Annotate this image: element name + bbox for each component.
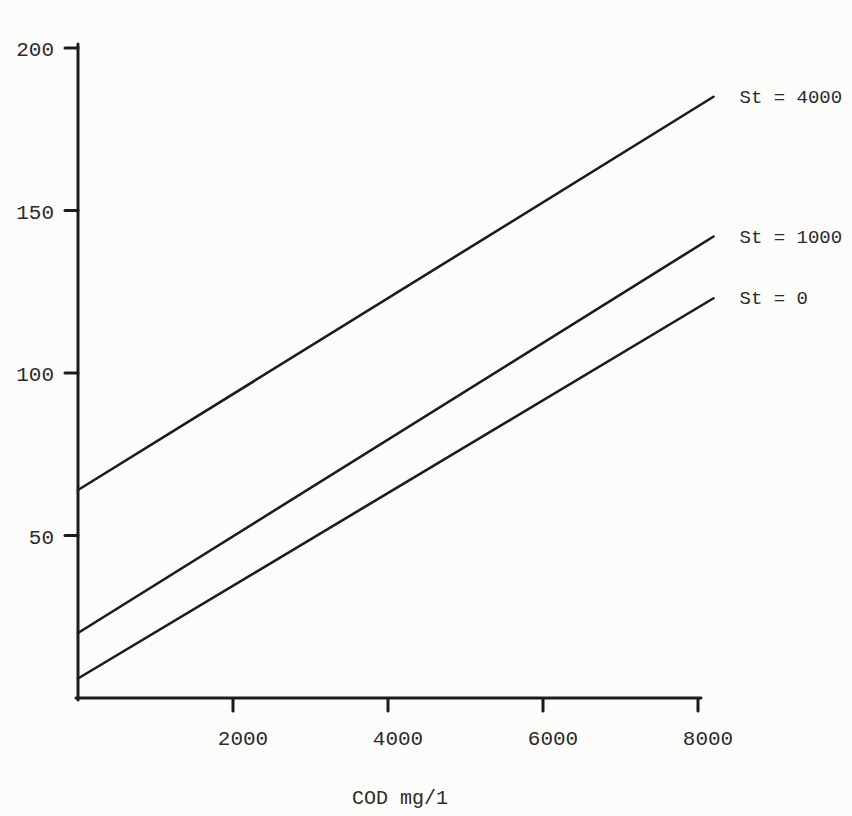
y-tick-label-150: 150 <box>16 202 54 225</box>
x-tick-label-8000: 8000 <box>683 728 733 751</box>
series-label-st-1000: St = 1000 <box>740 227 843 249</box>
axes-layer <box>76 44 701 700</box>
series-label-st-0: St = 0 <box>740 288 808 310</box>
x-tick-label-2000: 2000 <box>218 728 268 751</box>
series-line-st-0 <box>78 298 714 678</box>
y-tick-label-50: 50 <box>29 527 54 550</box>
x-tick-label-4000: 4000 <box>373 728 423 751</box>
labels-layer: 501001502002000400060008000St = 4000St =… <box>16 39 842 751</box>
series-line-st-4000 <box>78 97 714 490</box>
ticks-layer <box>65 48 698 711</box>
chart-plot: 501001502002000400060008000St = 4000St =… <box>0 0 852 816</box>
x-tick-label-6000: 6000 <box>528 728 578 751</box>
y-tick-label-200: 200 <box>16 39 54 62</box>
y-tick-label-100: 100 <box>16 364 54 387</box>
series-label-st-4000: St = 4000 <box>740 87 843 109</box>
series-line-st-1000 <box>78 237 714 634</box>
x-axis-title: COD mg/1 <box>352 787 448 810</box>
series-layer <box>78 97 714 679</box>
figure: 501001502002000400060008000St = 4000St =… <box>0 0 852 816</box>
